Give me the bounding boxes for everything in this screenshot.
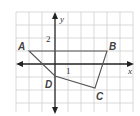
y-axis-label: y — [59, 14, 64, 24]
vertex-label-B: B — [109, 41, 116, 52]
grid-lines — [16, 12, 133, 112]
vertex-label-D: D — [45, 79, 52, 90]
y-axis-up-arrow-icon — [52, 12, 58, 19]
x-tick-label: 1 — [66, 66, 71, 76]
y-tick-label: 2 — [46, 34, 51, 44]
x-axis-label: x — [127, 66, 132, 76]
coordinate-plane: y x 2 1 A B C D — [0, 0, 140, 116]
vertex-label-A: A — [17, 41, 25, 52]
x-axis-left-arrow-icon — [16, 61, 23, 67]
vertex-label-C: C — [96, 91, 104, 102]
y-axis-down-arrow-icon — [52, 107, 58, 114]
